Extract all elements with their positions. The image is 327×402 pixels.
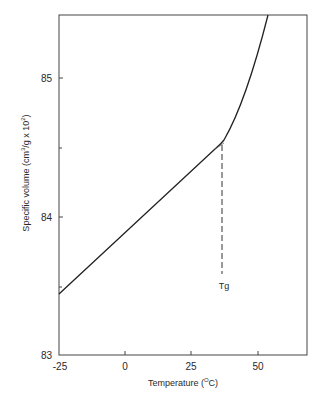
y-tick-label: 84 xyxy=(41,212,53,223)
x-tick-label: -25 xyxy=(53,361,68,372)
x-tick-label: 0 xyxy=(122,361,128,372)
x-tick-label: 50 xyxy=(252,361,264,372)
extrapolation-line xyxy=(215,143,224,149)
y-tick-label: 83 xyxy=(41,350,53,361)
y-tick-label: 85 xyxy=(41,73,53,84)
y-axis-ticks xyxy=(59,78,63,287)
x-axis-label: Temperature (OC) xyxy=(148,377,218,388)
x-tick-label: 25 xyxy=(185,361,197,372)
chart: 85 84 83 -25 0 25 50 Temperature (OC) Sp… xyxy=(0,0,327,402)
x-axis-ticks xyxy=(125,351,258,355)
plot-frame xyxy=(59,15,307,355)
tg-label: Tg xyxy=(219,281,230,291)
data-line xyxy=(59,15,268,294)
y-axis-label: Specific volume (cm3/g x 102) xyxy=(20,114,31,231)
